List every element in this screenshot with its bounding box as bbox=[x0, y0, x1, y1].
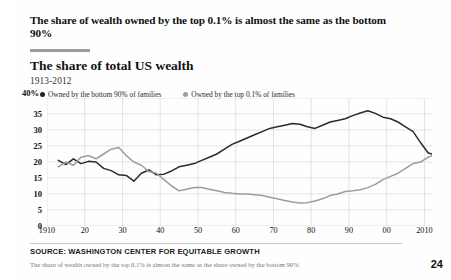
y-axis-tick-label: 15 bbox=[33, 173, 42, 183]
x-axis-tick-label: 20 bbox=[81, 226, 89, 235]
chart-title: The share of total US wealth bbox=[30, 58, 434, 73]
chart-area: 05101520253035 bbox=[0, 98, 434, 226]
x-axis: 19102030405060708090002010 bbox=[47, 226, 432, 240]
y-axis-top-label: 40% bbox=[22, 88, 39, 98]
chart-caption: The share of wealth owned by the top 0.1… bbox=[30, 261, 390, 268]
y-axis-tick-label: 20 bbox=[33, 157, 42, 167]
y-axis-tick-label: 5 bbox=[38, 205, 42, 215]
chart-date-range: 1913-2012 bbox=[30, 76, 434, 86]
chart-svg bbox=[47, 98, 432, 226]
y-axis: 05101520253035 bbox=[22, 98, 46, 226]
y-axis-tick-label: 10 bbox=[33, 189, 42, 199]
x-axis-tick-label: 00 bbox=[383, 226, 391, 235]
page-number: 24 bbox=[431, 258, 443, 270]
legend-marker-icon bbox=[183, 92, 188, 97]
x-axis-tick-label: 90 bbox=[345, 226, 353, 235]
x-axis-tick-label: 40 bbox=[156, 226, 164, 235]
y-axis-tick-label: 30 bbox=[33, 125, 42, 135]
x-axis-tick-label: 50 bbox=[194, 226, 202, 235]
x-axis-tick-label: 80 bbox=[307, 226, 315, 235]
x-axis-tick-label: 30 bbox=[118, 226, 126, 235]
x-axis-tick-label: 2010 bbox=[416, 226, 432, 235]
source-label: SOURCE: WASHINGTON CENTER FOR EQUITABLE … bbox=[30, 247, 260, 256]
series-line-top01 bbox=[58, 148, 432, 203]
y-axis-tick-label: 35 bbox=[33, 109, 42, 119]
chart-page: The share of wealth owned by the top 0.1… bbox=[0, 0, 451, 280]
title-divider bbox=[30, 49, 90, 52]
legend-marker-icon bbox=[40, 92, 45, 97]
x-axis-tick-label: 70 bbox=[269, 226, 277, 235]
x-axis-tick-label: 1910 bbox=[39, 226, 55, 235]
y-axis-tick-label: 25 bbox=[33, 141, 42, 151]
plot-area bbox=[47, 98, 432, 226]
x-axis-tick-label: 60 bbox=[232, 226, 240, 235]
headline: The share of wealth owned by the top 0.1… bbox=[30, 0, 402, 40]
source-divider bbox=[30, 243, 402, 244]
